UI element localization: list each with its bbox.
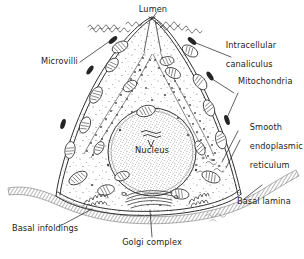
- label-ser-line2: endoplasmic: [250, 141, 303, 151]
- leader-mito-2: [226, 93, 238, 120]
- figure-canvas: Lumen Intracellular canaliculus Microvil…: [0, 0, 304, 259]
- label-mitochondria: Mitochondria: [238, 77, 304, 87]
- leader-mito-1: [209, 77, 234, 93]
- label-microvilli: Microvilli: [10, 57, 78, 67]
- label-ser-line3: reticulum: [250, 160, 290, 170]
- label-basal-infoldings: Basal infoldings: [12, 224, 102, 234]
- label-intracellular-canaliculus-line2: canaliculus: [226, 59, 273, 69]
- label-intracellular-canaliculus: Intracellular canaliculus: [215, 31, 303, 79]
- label-lumen: Lumen: [118, 5, 188, 15]
- label-golgi-complex: Golgi complex: [112, 238, 192, 248]
- label-ser-line1: Smooth: [250, 122, 282, 132]
- leader-microvilli: [80, 41, 110, 62]
- label-nucleus: Nucleus: [122, 146, 182, 156]
- label-smooth-endoplasmic-reticulum: Smooth endoplasmic reticulum: [239, 113, 303, 180]
- label-intracellular-canaliculus-line1: Intracellular: [226, 40, 276, 50]
- label-basal-lamina: Basal lamina: [237, 197, 303, 207]
